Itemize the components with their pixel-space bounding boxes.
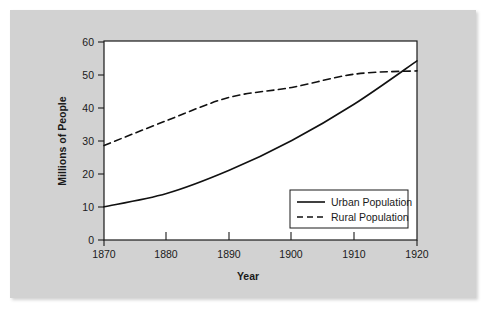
x-axis-tick-labels: 1870 1880 1890 1900 1910 1920 [92, 248, 429, 260]
y-axis-tick-labels: 0 10 20 30 40 50 60 [82, 36, 94, 246]
y-tick-label-60: 60 [82, 36, 94, 48]
x-axis-title: Year [237, 270, 259, 282]
y-tick-label-10: 10 [82, 201, 94, 213]
y-axis-ticks [98, 42, 104, 240]
x-tick-label-1900: 1900 [279, 248, 303, 260]
legend-label-rural: Rural Population [331, 211, 409, 223]
y-tick-label-50: 50 [82, 69, 94, 81]
y-tick-label-30: 30 [82, 135, 94, 147]
y-tick-label-20: 20 [82, 168, 94, 180]
x-tick-label-1920: 1920 [405, 248, 429, 260]
x-tick-label-1890: 1890 [217, 248, 241, 260]
x-tick-label-1870: 1870 [92, 248, 116, 260]
chart-page: 0 10 20 30 40 50 60 1870 1880 [0, 0, 491, 315]
y-axis-title: Millions of People [56, 96, 68, 185]
x-tick-label-1910: 1910 [342, 248, 366, 260]
x-tick-label-1880: 1880 [154, 248, 178, 260]
y-tick-label-0: 0 [88, 234, 94, 246]
y-tick-label-40: 40 [82, 102, 94, 114]
line-chart: 0 10 20 30 40 50 60 1870 1880 [0, 0, 491, 315]
legend-label-urban: Urban Population [331, 196, 412, 208]
chart-legend[interactable]: Urban Population Rural Population [290, 190, 412, 228]
